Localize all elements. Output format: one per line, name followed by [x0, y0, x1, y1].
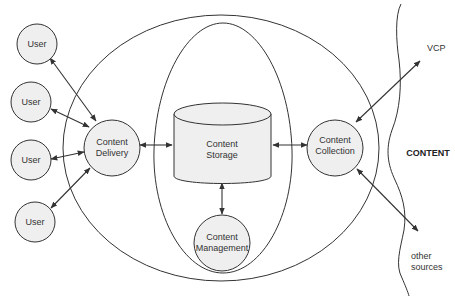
content-storage-node[interactable]: Content Storage: [174, 103, 271, 184]
edge-user2-delivery: [51, 109, 89, 127]
user-node-4-label: User: [25, 217, 44, 227]
content-management-node[interactable]: Content Management: [194, 215, 250, 271]
user-node-1-label: User: [27, 39, 46, 49]
diagram-canvas: User User User User Content Delivery Con…: [0, 0, 455, 296]
user-node-2[interactable]: User: [11, 82, 51, 122]
edge-user3-delivery: [51, 152, 84, 159]
vcp-label: VCP: [427, 43, 446, 53]
edge-collection-vcp: [356, 61, 420, 122]
user-node-3[interactable]: User: [11, 140, 51, 180]
content-storage-label-line2: Storage: [206, 150, 238, 160]
content-management-label-line2: Management: [196, 243, 249, 253]
user-node-2-label: User: [21, 97, 40, 107]
content-collection-label-line1: Content: [319, 135, 351, 145]
content-collection-label-line2: Collection: [315, 146, 355, 156]
other-sources-label-line2: sources: [411, 262, 443, 272]
other-sources-label-line1: other: [411, 251, 432, 261]
content-delivery-label-line1: Content: [96, 137, 128, 147]
edge-user4-delivery: [51, 168, 90, 208]
content-delivery-label-line2: Delivery: [96, 148, 129, 158]
content-delivery-node[interactable]: Content Delivery: [84, 120, 140, 176]
user-node-1[interactable]: User: [17, 24, 57, 64]
content-management-label-line1: Content: [206, 232, 238, 242]
user-node-3-label: User: [21, 155, 40, 165]
content-storage-label-line1: Content: [206, 139, 238, 149]
content-region-label: CONTENT: [406, 148, 450, 158]
user-node-4[interactable]: User: [15, 202, 55, 242]
content-collection-node[interactable]: Content Collection: [307, 120, 363, 176]
